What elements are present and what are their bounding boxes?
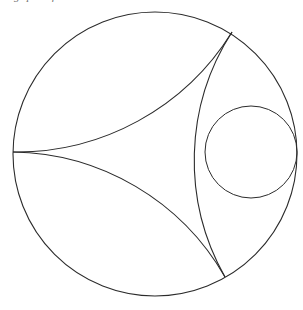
geodesic-side-lower <box>13 152 225 277</box>
inscribed-circle <box>205 106 297 198</box>
figure-root: g p n f <box>0 0 303 310</box>
boundary-circle <box>13 12 297 296</box>
geodesic-side-upper <box>13 32 232 152</box>
caption-sliver: g p n f <box>0 0 303 5</box>
poincare-disk-diagram <box>0 0 303 310</box>
caption-text: g p n f <box>14 0 57 2</box>
